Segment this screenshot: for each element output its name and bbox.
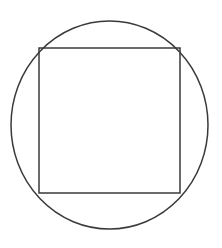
square-shape xyxy=(39,48,180,193)
geometry-figure-canvas xyxy=(0,0,222,248)
geometry-diagram xyxy=(0,0,222,248)
circle-shape xyxy=(11,21,208,229)
